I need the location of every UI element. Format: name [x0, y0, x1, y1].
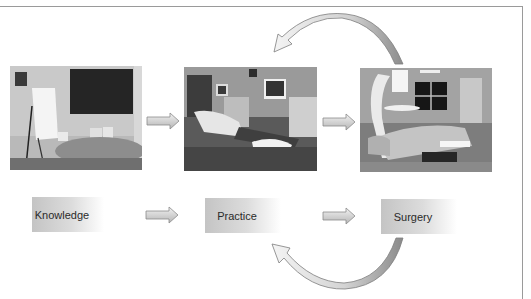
knowledge-label: Knowledge — [35, 209, 89, 221]
surgery-label-box: Surgery — [381, 199, 457, 234]
frame-right-border — [522, 6, 523, 299]
simulation-lab-photo — [184, 67, 317, 171]
practice-label-box: Practice — [205, 198, 281, 233]
practice-label: Practice — [217, 210, 257, 222]
knowledge-label-box: Knowledge — [32, 197, 104, 232]
arrow-knowledge-to-practice-label-icon — [145, 206, 179, 224]
conference-room-photo — [10, 66, 142, 170]
operating-room-photo — [360, 68, 492, 172]
arrow-practice-to-surgery-photo-icon — [322, 113, 356, 131]
arrow-knowledge-to-practice-photo-icon — [146, 112, 180, 130]
curved-feedback-arrow-top-icon — [260, 10, 410, 72]
surgery-label: Surgery — [394, 211, 433, 223]
frame-top-border — [0, 6, 522, 7]
arrow-practice-to-surgery-label-icon — [322, 207, 356, 225]
curved-feedback-arrow-bottom-icon — [260, 236, 410, 296]
